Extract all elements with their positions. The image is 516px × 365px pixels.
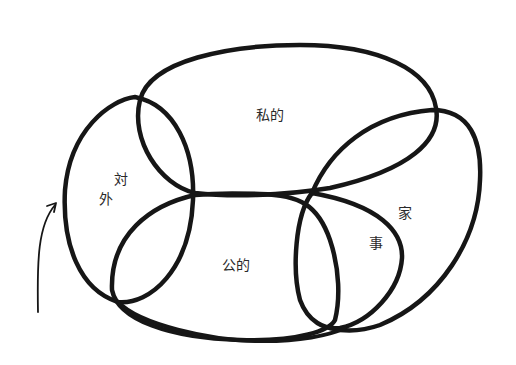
arrow-shaft: [38, 205, 55, 312]
label-housework-2: 事: [369, 236, 383, 250]
label-public: 公的: [222, 258, 250, 272]
diagram-canvas: 私的 公的 対 外 家 事: [0, 0, 516, 365]
label-external-2: 外: [99, 192, 113, 206]
label-external-1: 対: [114, 172, 128, 186]
label-housework-1: 家: [398, 206, 412, 220]
label-private: 私的: [256, 108, 284, 122]
housework-loop: [296, 193, 402, 328]
